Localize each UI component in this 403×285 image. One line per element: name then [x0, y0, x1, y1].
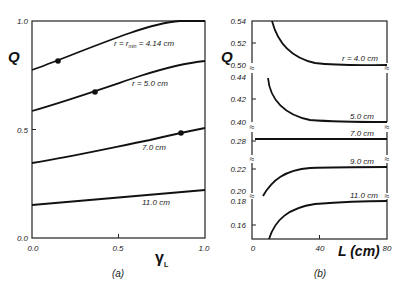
y-ticks — [252, 43, 320, 239]
curve-label-r-11-0: 11.0 cm — [142, 198, 170, 207]
x-axis-title: L (cm) — [338, 243, 380, 259]
x-tick-label: 0.5 — [112, 244, 124, 253]
panel-b: ≈ ≈ ≈ ≈ ≈ ≈ ≈ ≈ 0.54 0.52 0.50 0.44 0.42… — [221, 17, 392, 279]
x-axis-title-sub: L — [164, 261, 169, 268]
curve-label-r-7-0: 7.0 cm — [350, 129, 374, 138]
curve-label-r-4-0: r = 4.0 cm — [342, 54, 378, 63]
axis-break-mark: ≈ — [385, 191, 390, 201]
axis-break-mark: ≈ — [385, 122, 390, 132]
curve-r-5-0 — [32, 61, 205, 111]
data-marker — [92, 89, 98, 95]
axis-break-mark: ≈ — [250, 63, 255, 73]
curve-label-r-5-0: 5.0 cm — [350, 112, 374, 121]
x-axis-title: γL — [155, 249, 169, 268]
y-tick-label: 0.18 — [230, 197, 246, 206]
curve-label-r-9-0: 9.0 cm — [350, 157, 374, 166]
axis-break-mark: ≈ — [385, 154, 390, 164]
y-tick-label: 0.0 — [17, 234, 29, 243]
y-tick-label: 0.54 — [230, 17, 246, 26]
x-tick-label: 1.0 — [198, 244, 210, 253]
axis-break-mark: ≈ — [250, 154, 255, 164]
curve-r-11-0 — [269, 201, 387, 239]
panel-a: 1.0 0.5 0.0 0.0 0.5 1.0 Q γL (a) r = rmi… — [8, 17, 210, 279]
y-tick-label: 0.28 — [230, 137, 246, 146]
x-tick-label: 0 — [251, 244, 256, 253]
x-tick-label: 40 — [316, 244, 325, 253]
y-tick-label: 0.16 — [230, 221, 246, 230]
curve-r-11-0 — [32, 190, 205, 205]
data-marker — [178, 130, 184, 136]
panel-a-label: (a) — [112, 268, 124, 279]
axis-break-mark: ≈ — [250, 191, 255, 201]
axis-break-mark: ≈ — [250, 122, 255, 132]
y-tick-label: 0.50 — [230, 61, 246, 70]
y-tick-label: 0.52 — [230, 39, 246, 48]
y-tick-label: 1.0 — [17, 17, 29, 26]
x-tick-label: 0.0 — [27, 244, 39, 253]
curve-label-r-11-0: 11.0 cm — [350, 191, 378, 200]
curve-label-r-7-0: 7.0 cm — [142, 143, 166, 152]
x-axis-title-main: γ — [155, 249, 164, 266]
y-axis-title: Q — [8, 48, 20, 65]
curve-label-r-4-14: r = rmin = 4.14 cm — [114, 39, 174, 49]
figure: 1.0 0.5 0.0 0.0 0.5 1.0 Q γL (a) r = rmi… — [0, 0, 403, 285]
panel-a-frame — [32, 21, 205, 238]
y-axis-title: Q — [221, 48, 233, 65]
y-tick-label: 0.5 — [17, 126, 29, 135]
x-tick-label: 80 — [383, 244, 392, 253]
data-marker — [55, 58, 61, 64]
y-tick-label: 0.44 — [230, 73, 246, 82]
y-tick-label: 0.40 — [230, 118, 246, 127]
y-tick-label: 0.42 — [230, 95, 246, 104]
curve-label-r-5-0: r = 5.0 cm — [132, 79, 168, 88]
panel-b-label: (b) — [314, 268, 326, 279]
y-tick-label: 0.20 — [230, 187, 246, 196]
y-tick-label: 0.22 — [230, 165, 246, 174]
